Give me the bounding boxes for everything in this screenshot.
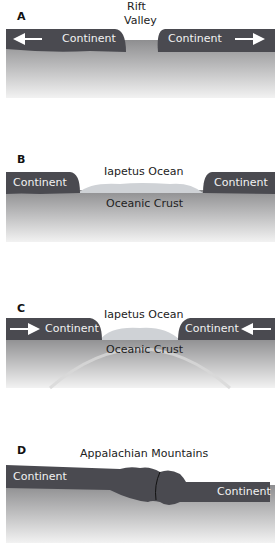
appalachian-mountains-label: Appalachian Mountains <box>80 447 208 460</box>
panel-label-c: C <box>17 302 25 315</box>
panel-label-d: D <box>17 444 26 457</box>
continent-right-label: Continent <box>185 322 239 335</box>
continent-right-label: Continent <box>214 176 268 189</box>
panel-c: C Iapetus Ocean Oceanic Crust Continent … <box>0 290 279 400</box>
iapetus-ocean-diagram <box>0 140 279 250</box>
continent-right-label: Continent <box>168 32 222 45</box>
continent-right-label: Continent <box>217 485 271 498</box>
rift-label: Rift <box>127 0 146 13</box>
panel-d: D Appalachian Mountains Continent Contin… <box>0 430 279 548</box>
continent-left-label: Continent <box>45 322 99 335</box>
continent-left-label: Continent <box>62 32 116 45</box>
oceanic-crust-label: Oceanic Crust <box>106 343 183 356</box>
panel-a: A Rift Valley Continent Continent <box>0 0 279 110</box>
oceanic-crust-label: Oceanic Crust <box>106 197 183 210</box>
valley-label: Valley <box>124 14 157 27</box>
panel-b: B Iapetus Ocean Oceanic Crust Continent … <box>0 140 279 250</box>
iapetus-ocean-label: Iapetus Ocean <box>104 165 183 178</box>
iapetus-ocean-label: Iapetus Ocean <box>104 308 183 321</box>
panel-label-a: A <box>17 10 26 23</box>
continent-left-label: Continent <box>13 470 67 483</box>
continent-left-label: Continent <box>13 176 67 189</box>
panel-label-b: B <box>17 153 25 166</box>
